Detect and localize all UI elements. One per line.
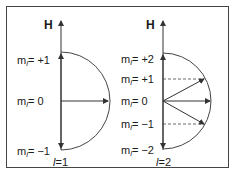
ml-label-plus2: ml= +2 — [121, 53, 154, 67]
quantum-number-label: l=1 — [53, 156, 68, 168]
ml-label-plus1: ml= +1 — [121, 73, 154, 87]
panel-l2: H ml= +2 ml= +1 ml= 0 ml= −1 ml= −2 l=2 — [121, 18, 211, 168]
angular-momentum-diagram: H ml= +1 ml= 0 ml= −1 l=1 H ml= +2 ml= +… — [0, 0, 235, 189]
h-axis-label: H — [146, 18, 155, 32]
ml-label-0: ml= 0 — [121, 95, 148, 109]
ml-label-minus1: ml= −1 — [121, 118, 154, 132]
ml-label-minus2: ml= −2 — [121, 144, 154, 158]
panel-l1: H ml= +1 ml= 0 ml= −1 l=1 — [17, 18, 110, 168]
ml-label-plus1: ml= +1 — [17, 54, 50, 68]
ml-label-0: ml= 0 — [17, 95, 44, 109]
ml-plus1-vector-arrow — [163, 79, 204, 101]
h-axis-label: H — [44, 18, 53, 32]
quantum-number-label: l=2 — [156, 156, 171, 168]
ml-label-minus1: ml= −1 — [17, 145, 50, 159]
figure-frame — [7, 7, 229, 168]
ml-minus1-vector-arrow — [163, 101, 204, 124]
